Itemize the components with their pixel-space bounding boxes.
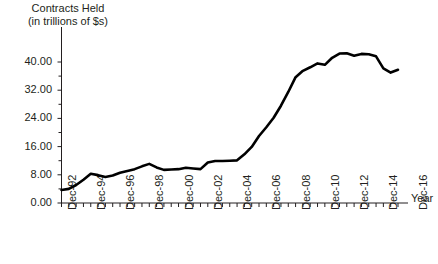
axes-group [58,27,409,207]
chart-container: Contracts Held (in trillions of $s) 0.00… [0,0,438,264]
x-axis-ticks [62,203,399,207]
plot-area [0,0,438,264]
data-series-line [62,53,399,190]
y-axis-ticks [58,62,62,203]
